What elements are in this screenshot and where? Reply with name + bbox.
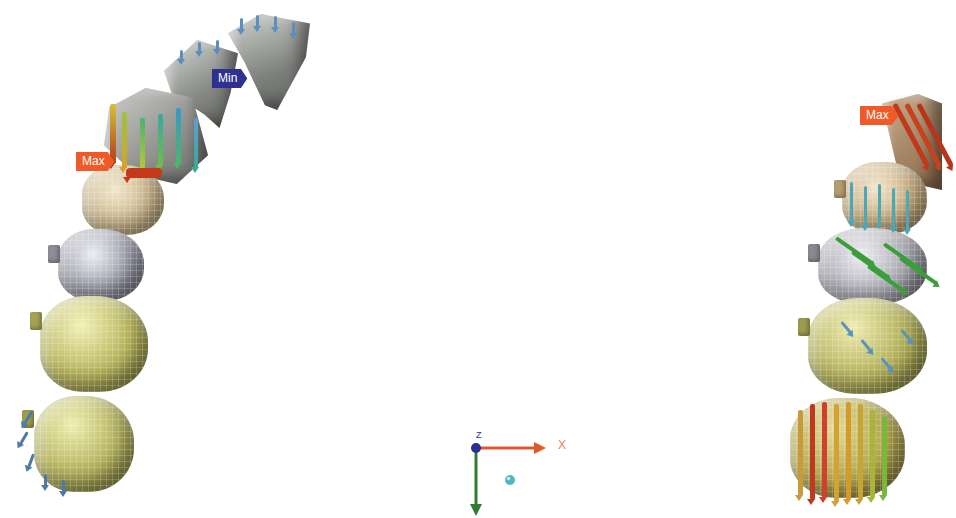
axis-z-label: Z <box>476 430 482 440</box>
right-max-tag: Max <box>860 106 899 125</box>
left-molar-2 <box>34 396 134 492</box>
left-min-tag: Min <box>212 69 247 88</box>
axis-triad: X Z <box>466 436 576 518</box>
left-molar-1 <box>40 296 148 392</box>
left-max-tag: Max <box>76 152 115 171</box>
axis-x-label: X <box>558 438 566 452</box>
left-premolar-2 <box>58 229 144 301</box>
